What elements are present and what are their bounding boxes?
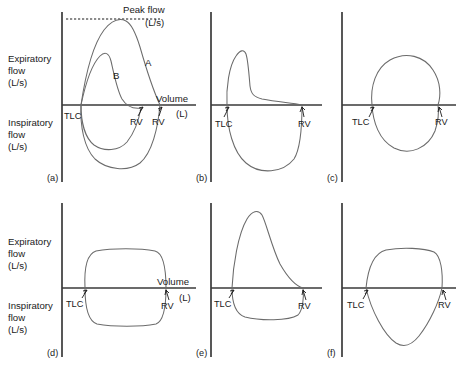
panel-b-tlc-label: TLC	[215, 119, 233, 129]
peak-flow-label-line2: (L/s)	[145, 17, 164, 28]
panel-e-expiratory-curve	[232, 212, 303, 288]
inspiratory-flow-label-line2: flow	[8, 129, 25, 140]
curve-label-a: A	[145, 57, 152, 68]
panel-a-tlc-label: TLC	[64, 111, 82, 121]
panel-a-rv-a-label: RV	[152, 117, 165, 127]
inspiratory-flow-label-d-line1: Inspiratory	[8, 300, 53, 311]
inspiratory-flow-label-d-line3: (L/s)	[8, 324, 27, 335]
panel-e-letter: (e)	[196, 348, 207, 358]
panel-f: TLC RV (f)	[327, 203, 456, 358]
panel-c-rv-label: RV	[435, 117, 448, 127]
panel-e-tlc-arrowhead	[230, 290, 234, 294]
panel-d-rv-label: RV	[161, 301, 174, 311]
panel-a-rv-b-label: RV	[130, 117, 143, 127]
panel-b-letter: (b)	[196, 173, 207, 183]
panel-b: TLC RV (b)	[196, 12, 322, 183]
volume-label-line1: Volume	[156, 93, 188, 104]
curve-b-inspiratory	[81, 105, 141, 150]
panel-f-inspiratory-curve	[366, 288, 442, 346]
panel-f-rv-label: RV	[438, 300, 451, 310]
panel-c-letter: (c)	[327, 173, 338, 183]
panel-f-tlc-label: TLC	[347, 300, 365, 310]
inspiratory-flow-label-d-line2: flow	[8, 312, 25, 323]
panel-b-inspiratory-curve	[227, 105, 302, 171]
peak-flow-label-line1: Peak flow	[123, 4, 165, 15]
curve-a-inspiratory	[81, 105, 160, 169]
panel-c-expiratory-curve	[372, 55, 440, 105]
expiratory-flow-label-d-line1: Expiratory	[8, 236, 51, 247]
panel-d-letter: (d)	[47, 348, 58, 358]
inspiratory-flow-label-line3: (L/s)	[8, 141, 27, 152]
panel-d-tlc-label: TLC	[66, 299, 84, 309]
volume-label-line2: (L)	[176, 108, 188, 119]
panel-c-tlc-label: TLC	[352, 117, 370, 127]
volume-label-d-line2: (L)	[179, 292, 191, 303]
panel-a-letter: (a)	[47, 173, 58, 183]
panel-e-rv-label: RV	[298, 301, 311, 311]
panel-e: TLC RV (e)	[196, 203, 322, 358]
inspiratory-flow-label-line1: Inspiratory	[8, 117, 53, 128]
expiratory-flow-label-line2: flow	[8, 65, 25, 76]
panel-d-tlc-arrowhead	[83, 290, 87, 294]
panel-d: TLC RV Expiratory flow (L/s) Inspiratory…	[8, 203, 196, 358]
panel-c: TLC RV (c)	[327, 12, 456, 183]
panel-b-expiratory-curve	[227, 51, 302, 105]
expiratory-flow-label-line3: (L/s)	[8, 77, 27, 88]
panel-e-tlc-label: TLC	[214, 299, 232, 309]
panel-d-inspiratory-curve	[85, 288, 166, 326]
flow-volume-loop-figure: Peak flow (L/s) Expiratory flow (L/s) In…	[0, 0, 465, 369]
expiratory-flow-label-d-line2: flow	[8, 248, 25, 259]
panel-b-rv-label: RV	[298, 119, 311, 129]
panel-e-inspiratory-curve	[232, 288, 303, 320]
panel-a: Peak flow (L/s) Expiratory flow (L/s) In…	[8, 4, 196, 183]
expiratory-flow-label-line1: Expiratory	[8, 53, 51, 64]
panel-d-expiratory-curve	[85, 249, 166, 288]
panel-f-letter: (f)	[327, 348, 336, 358]
panel-c-inspiratory-curve	[372, 105, 438, 151]
volume-label-d-line1: Volume	[157, 276, 189, 287]
panel-f-expiratory-curve	[366, 248, 442, 288]
expiratory-flow-label-d-line3: (L/s)	[8, 260, 27, 271]
curve-label-b: B	[113, 70, 119, 81]
